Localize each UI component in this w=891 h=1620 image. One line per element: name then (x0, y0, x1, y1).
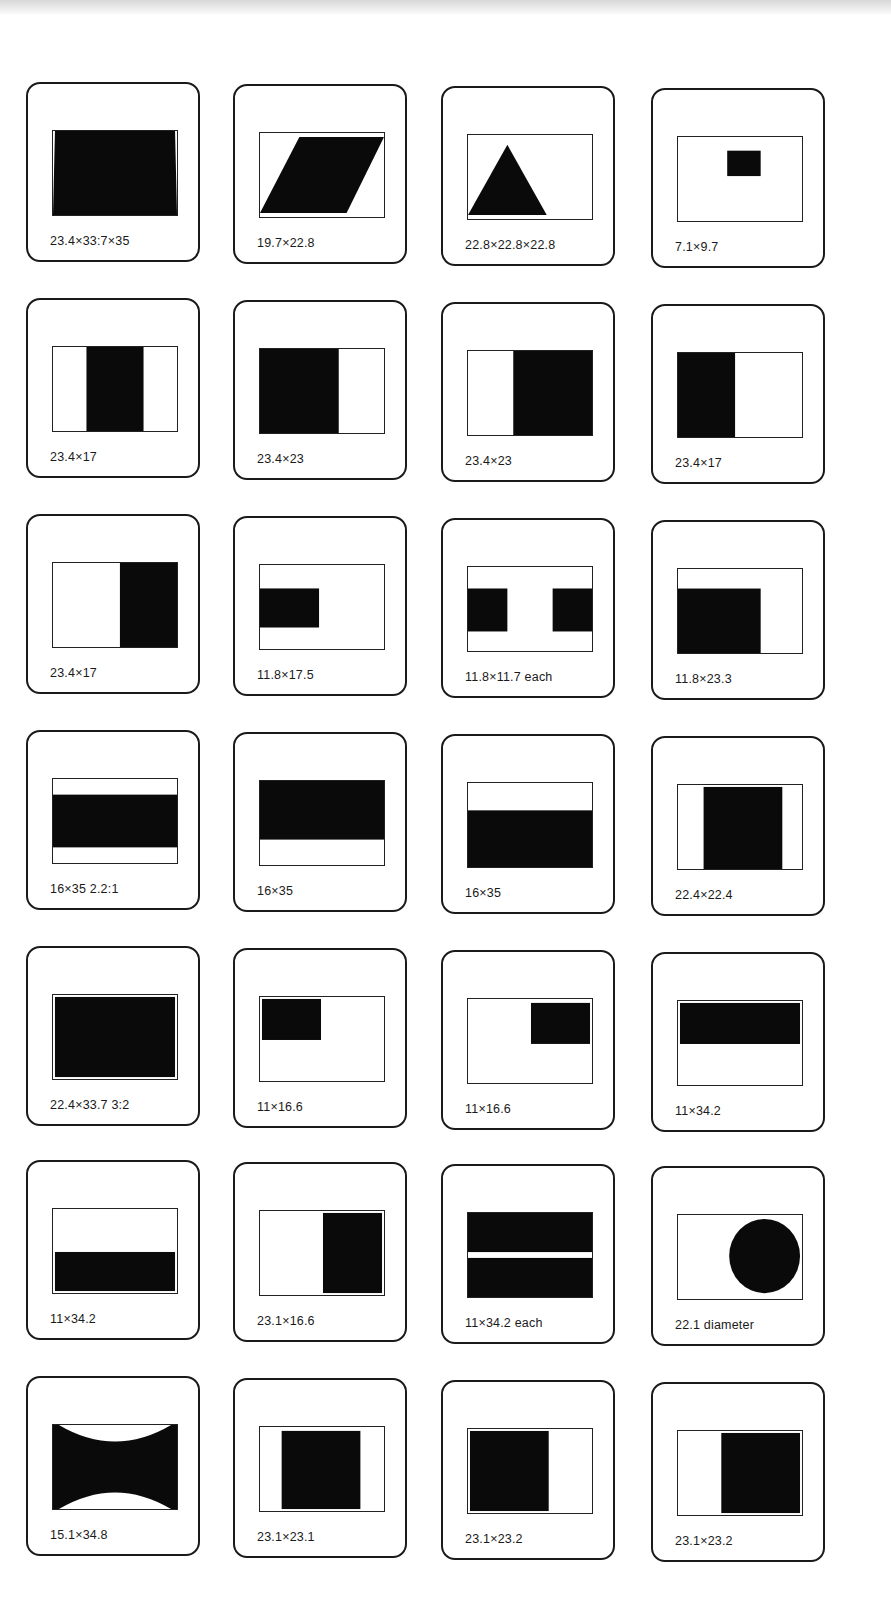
mask-frame-right-vertical (52, 562, 178, 648)
mask-shape-icon (53, 1209, 177, 1293)
slide-dimension-label: 11.8×17.5 (257, 668, 314, 682)
mask-shape-icon (53, 1425, 177, 1509)
mask-shape-icon (260, 1427, 384, 1511)
slide-dimension-label: 23.1×16.6 (257, 1314, 315, 1328)
mask-frame-center-vertical (52, 346, 178, 432)
slide-card: 11.8×17.5 (233, 516, 407, 696)
mask-frame-top-strip (677, 1000, 803, 1086)
mask-frame-triangle (467, 134, 593, 220)
slide-dimension-label: 11.8×23.3 (675, 672, 732, 686)
slide-dimension-label: 23.4×33:7×35 (50, 234, 130, 248)
mask-frame-right-vertical-2 (259, 1210, 385, 1296)
slide-dimension-label: 22.4×22.4 (675, 888, 733, 902)
slide-card: 23.4×17 (26, 514, 200, 694)
slide-card: 23.1×23.2 (441, 1380, 615, 1560)
mask-frame-center-square-2 (259, 1426, 385, 1512)
mask-shape-icon (678, 137, 802, 221)
mask-frame-top-right-small (467, 998, 593, 1084)
slide-card: 11×34.2 (26, 1160, 200, 1340)
slide-card: 22.8×22.8×22.8 (441, 86, 615, 266)
slide-dimension-label: 23.1×23.2 (675, 1534, 733, 1548)
mask-shape-icon (260, 565, 384, 649)
slide-card: 11×34.2 each (441, 1164, 615, 1344)
mask-frame-left-wide (677, 568, 803, 654)
mask-shape-icon (260, 997, 384, 1081)
slide-card: 11×16.6 (441, 950, 615, 1130)
slide-card: 11.8×23.3 (651, 520, 825, 700)
mask-frame-trapezoid (52, 130, 178, 216)
mask-shape-icon (53, 563, 177, 647)
slide-dimension-label: 23.4×17 (675, 456, 722, 470)
slide-dimension-label: 16×35 (465, 886, 501, 900)
slide-dimension-label: 23.4×23 (465, 454, 512, 468)
slide-dimension-label: 19.7×22.8 (257, 236, 315, 250)
mask-frame-left-small (259, 564, 385, 650)
mask-shape-icon (260, 781, 384, 865)
slide-card: 16×35 (441, 734, 615, 914)
slide-card: 23.1×23.2 (651, 1382, 825, 1562)
slide-dimension-label: 23.4×17 (50, 666, 97, 680)
slide-dimension-label: 23.1×23.2 (465, 1532, 523, 1546)
mask-frame-center-band (52, 778, 178, 864)
slide-dimension-label: 23.4×23 (257, 452, 304, 466)
slide-card: 11×16.6 (233, 948, 407, 1128)
mask-frame-parallelogram (259, 132, 385, 218)
slide-card: 23.4×17 (651, 304, 825, 484)
mask-shape-icon (53, 779, 177, 863)
slide-card: 22.1 diameter (651, 1166, 825, 1346)
mask-frame-left-square (259, 348, 385, 434)
mask-frame-top-band (259, 780, 385, 866)
slide-dimension-label: 11.8×11.7 each (465, 670, 552, 684)
mask-shape-icon (468, 567, 592, 651)
mask-frame-bottom-strip (52, 1208, 178, 1294)
mask-frame-two-squares (467, 566, 593, 652)
mask-shape-icon (260, 133, 384, 217)
mask-frame-left-vertical (677, 352, 803, 438)
mask-shape-icon (678, 1215, 802, 1299)
mask-shape-icon (260, 349, 384, 433)
mask-shape-icon (53, 995, 177, 1079)
slide-card: 11×34.2 (651, 952, 825, 1132)
mask-frame-circle (677, 1214, 803, 1300)
mask-shape-icon (53, 347, 177, 431)
slide-dimension-label: 11×16.6 (465, 1102, 511, 1116)
slide-dimension-label: 23.4×17 (50, 450, 97, 464)
mask-shape-icon (468, 351, 592, 435)
slide-dimension-label: 11×34.2 (50, 1312, 96, 1326)
slide-dimension-label: 11×16.6 (257, 1100, 303, 1114)
slide-card: 23.1×16.6 (233, 1162, 407, 1342)
slide-card: 15.1×34.8 (26, 1376, 200, 1556)
mask-shape-icon (468, 783, 592, 867)
slide-dimension-label: 11×34.2 (675, 1104, 721, 1118)
mask-frame-full (52, 994, 178, 1080)
mask-shape-icon (53, 131, 177, 215)
slide-card: 23.4×23 (233, 300, 407, 480)
slide-dimension-label: 7.1×9.7 (675, 240, 718, 254)
mask-shape-icon (678, 1431, 802, 1515)
slide-dimension-label: 16×35 (257, 884, 293, 898)
slide-card: 7.1×9.7 (651, 88, 825, 268)
slide-card: 11.8×11.7 each (441, 518, 615, 698)
mask-frame-two-strips (467, 1212, 593, 1298)
mask-shape-icon (678, 785, 802, 869)
slide-card: 23.4×23 (441, 302, 615, 482)
mask-shape-icon (678, 569, 802, 653)
mask-frame-center-square (677, 784, 803, 870)
slide-card: 23.4×17 (26, 298, 200, 478)
slide-dimension-label: 22.8×22.8×22.8 (465, 238, 555, 252)
slide-card: 16×35 2.2:1 (26, 730, 200, 910)
slide-card: 22.4×33.7 3:2 (26, 946, 200, 1126)
mask-shape-icon (260, 1211, 384, 1295)
mask-shape-icon (678, 1001, 802, 1085)
mask-frame-right-square-2 (677, 1430, 803, 1516)
mask-shape-icon (468, 999, 592, 1083)
mask-frame-bottom-band (467, 782, 593, 868)
slide-dimension-label: 23.1×23.1 (257, 1530, 315, 1544)
slide-card: 19.7×22.8 (233, 84, 407, 264)
slide-dimension-label: 16×35 2.2:1 (50, 882, 119, 896)
mask-frame-top-left-small (259, 996, 385, 1082)
slide-card: 22.4×22.4 (651, 736, 825, 916)
mask-shape-icon (468, 135, 592, 219)
slide-dimension-label: 11×34.2 each (465, 1316, 543, 1330)
mask-shape-icon (468, 1213, 592, 1297)
